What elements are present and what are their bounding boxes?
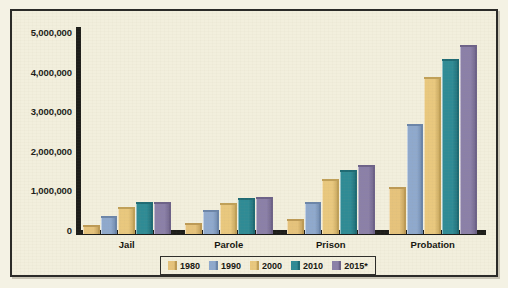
bar-parole-1980[interactable] (185, 225, 202, 234)
bar-group-bars (83, 31, 171, 234)
x-axis-category-label: Parole (185, 239, 273, 250)
chart-panel: 5,000,0004,000,0003,000,0002,000,0001,00… (10, 9, 498, 277)
bar-left-highlight (154, 204, 155, 234)
legend-item-1980[interactable]: 1980 (168, 261, 200, 271)
bar-slot (220, 31, 237, 234)
bar-parole-2010[interactable] (238, 200, 255, 234)
legend-swatch-icon (209, 261, 218, 270)
bar-group-parole: Parole (185, 31, 273, 234)
bar-left-highlight (220, 205, 221, 234)
bar-prison-2015[interactable] (358, 167, 375, 234)
legend-swatch-icon (332, 261, 341, 270)
legend-label: 1990 (221, 261, 241, 271)
bar-right-edge (302, 221, 304, 234)
bar-group-jail: Jail (83, 31, 171, 234)
bar-slot (389, 31, 406, 234)
bar-left-highlight (358, 167, 359, 234)
bar-left-highlight (101, 218, 102, 234)
bar-parole-2000[interactable] (220, 205, 237, 234)
bar-right-edge (235, 205, 237, 234)
bar-right-edge (169, 204, 171, 234)
bar-slot (101, 31, 118, 234)
bar-right-edge (439, 79, 441, 234)
bar-slot (358, 31, 375, 234)
bar-jail-1990[interactable] (101, 218, 118, 234)
plot-area: JailParolePrisonProbation (78, 27, 486, 234)
bar-parole-2015[interactable] (256, 199, 273, 234)
bar-left-highlight (287, 221, 288, 234)
bar-left-highlight (305, 204, 306, 234)
bar-prison-2000[interactable] (322, 181, 339, 234)
bar-group-bars (287, 31, 375, 234)
y-axis-tick-labels: 5,000,0004,000,0003,000,0002,000,0001,00… (12, 27, 72, 235)
bar-right-edge (271, 199, 273, 234)
bar-probation-1980[interactable] (389, 189, 406, 234)
bar-group-prison: Prison (287, 31, 375, 234)
bar-probation-2015[interactable] (460, 47, 477, 234)
bar-jail-2010[interactable] (136, 204, 153, 234)
legend-label: 1980 (180, 261, 200, 271)
legend-item-2010[interactable]: 2010 (291, 261, 323, 271)
bar-jail-2000[interactable] (118, 209, 135, 234)
bar-right-edge (200, 225, 202, 234)
legend-item-1990[interactable]: 1990 (209, 261, 241, 271)
bar-right-edge (421, 126, 423, 234)
legend-swatch-icon (250, 261, 259, 270)
bar-left-highlight (118, 209, 119, 234)
bar-left-highlight (83, 227, 84, 234)
bar-parole-1990[interactable] (203, 212, 220, 234)
x-axis-category-label: Probation (389, 239, 477, 250)
bar-right-edge (475, 47, 477, 234)
bar-right-edge (151, 204, 153, 234)
bar-slot (238, 31, 255, 234)
bar-right-edge (253, 200, 255, 234)
bar-group-probation: Probation (389, 31, 477, 234)
bar-slot (340, 31, 357, 234)
bar-left-highlight (136, 204, 137, 234)
bar-slot (203, 31, 220, 234)
bar-left-highlight (389, 189, 390, 234)
bar-right-edge (133, 209, 135, 234)
bar-left-highlight (238, 200, 239, 234)
x-axis-category-label: Jail (83, 239, 171, 250)
bar-jail-2015[interactable] (154, 204, 171, 234)
bar-prison-2010[interactable] (340, 172, 357, 234)
bar-prison-1980[interactable] (287, 221, 304, 234)
bar-left-highlight (322, 181, 323, 234)
bar-slot (322, 31, 339, 234)
bar-right-edge (115, 218, 117, 234)
bar-prison-1990[interactable] (305, 204, 322, 234)
bar-left-highlight (407, 126, 408, 234)
bar-group-bars (185, 31, 273, 234)
chart-figure: 5,000,0004,000,0003,000,0002,000,0001,00… (0, 0, 508, 288)
bar-left-highlight (203, 212, 204, 234)
y-axis-tick-label: 2,000,000 (31, 145, 72, 156)
bar-slot (185, 31, 202, 234)
bar-probation-2010[interactable] (442, 61, 459, 234)
x-axis-category-label: Prison (287, 239, 375, 250)
bar-slot (407, 31, 424, 234)
bar-group-bars (389, 31, 477, 234)
bar-right-edge (457, 61, 459, 234)
y-axis-tick-label: 3,000,000 (31, 106, 72, 117)
bar-right-edge (373, 167, 375, 234)
bar-right-edge (98, 227, 100, 234)
bar-left-highlight (442, 61, 443, 234)
bar-left-highlight (340, 172, 341, 234)
y-axis-tick-label: 1,000,000 (31, 185, 72, 196)
bar-slot (460, 31, 477, 234)
legend-label: 2015* (344, 261, 368, 271)
legend-swatch-icon (291, 261, 300, 270)
legend-item-2000[interactable]: 2000 (250, 261, 282, 271)
bar-slot (136, 31, 153, 234)
legend-label: 2010 (303, 261, 323, 271)
y-axis-tick-label: 0 (67, 225, 72, 236)
bar-left-highlight (460, 47, 461, 234)
bar-jail-1980[interactable] (83, 227, 100, 234)
legend-item-2015[interactable]: 2015* (332, 261, 368, 271)
bar-left-highlight (256, 199, 257, 234)
bar-probation-2000[interactable] (424, 79, 441, 234)
bar-right-edge (319, 204, 321, 234)
bar-slot (287, 31, 304, 234)
bar-probation-1990[interactable] (407, 126, 424, 234)
